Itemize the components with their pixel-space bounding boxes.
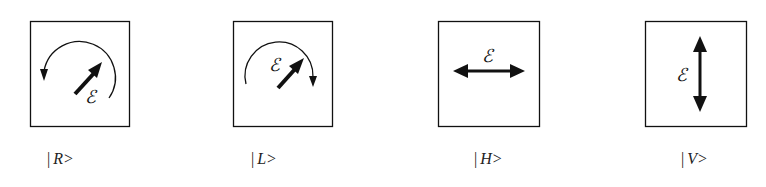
vertical-polarization-diagram: ℰ: [645, 21, 747, 127]
panel-vertical-linear: ℰ: [645, 21, 745, 127]
ket-label-L: |L>: [251, 150, 277, 168]
panel-right-circular: ℰ: [30, 21, 130, 127]
field-vector: [278, 68, 296, 88]
arc-arrowhead-icon: [40, 69, 48, 81]
panel-frame: [646, 22, 747, 127]
down-arrowhead-icon: [693, 96, 707, 112]
right-arrowhead-icon: [510, 64, 525, 78]
ket-label-V: |V>: [681, 150, 708, 168]
panel-frame: [439, 22, 540, 127]
panel-left-circular: ℰ: [233, 21, 333, 127]
field-symbol: ℰ: [676, 65, 689, 85]
arc-arrowhead-icon: [309, 76, 317, 87]
field-symbol: ℰ: [269, 55, 282, 75]
panel-frame: [234, 22, 333, 127]
panel-horizontal-linear: ℰ: [438, 21, 538, 127]
right-circular-polarization-diagram: ℰ: [30, 21, 130, 127]
up-arrowhead-icon: [693, 36, 707, 52]
horizontal-polarization-diagram: ℰ: [438, 21, 540, 127]
ket-label-R: |R>: [47, 150, 74, 168]
field-symbol: ℰ: [482, 46, 495, 66]
field-symbol: ℰ: [85, 87, 98, 107]
left-circular-polarization-diagram: ℰ: [233, 21, 333, 127]
left-arrowhead-icon: [453, 64, 468, 78]
ket-label-H: |H>: [474, 150, 503, 168]
